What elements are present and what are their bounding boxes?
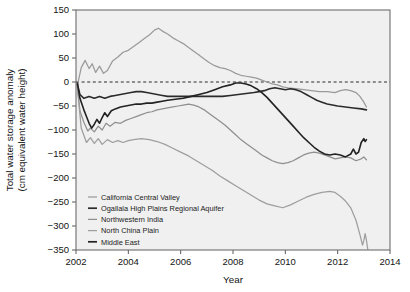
- x-tick-label: 2006: [170, 256, 191, 267]
- plot-area-background: [76, 10, 390, 250]
- y-tick-label: 0: [64, 76, 69, 87]
- x-tick-label: 2010: [275, 256, 296, 267]
- chart-figure: 150100500−50−100−150−200−250−300−350 200…: [0, 0, 410, 292]
- x-tick-label: 2002: [65, 256, 86, 267]
- y-tick-label: 150: [53, 4, 69, 15]
- y-axis-title-line1: Total water storage anomaly: [4, 69, 15, 192]
- y-tick-label: −50: [53, 100, 69, 111]
- legend-label: North China Plain: [101, 226, 159, 235]
- water-storage-anomaly-line-chart: 150100500−50−100−150−200−250−300−350 200…: [0, 0, 410, 292]
- y-tick-label: −300: [48, 220, 69, 231]
- legend-label: Northwestern India: [101, 215, 164, 224]
- legend-label: California Central Valley: [101, 193, 180, 202]
- y-tick-label: −100: [48, 124, 69, 135]
- legend-label: Ogallala High Plains Regional Aquifer: [101, 204, 224, 213]
- x-tick-label: 2012: [327, 256, 348, 267]
- x-tick-label: 2014: [379, 256, 400, 267]
- y-tick-label: −350: [48, 244, 69, 255]
- y-tick-label: 100: [53, 28, 69, 39]
- y-tick-label: −250: [48, 196, 69, 207]
- y-tick-label: −200: [48, 172, 69, 183]
- x-tick-label: 2008: [222, 256, 243, 267]
- x-tick-label: 2004: [118, 256, 139, 267]
- x-axis-title: Year: [223, 274, 244, 285]
- y-tick-label: 50: [58, 52, 69, 63]
- y-axis-title-line2: (cm equivalent water height): [16, 68, 27, 191]
- y-tick-label: −150: [48, 148, 69, 159]
- legend-label: Middle East: [101, 238, 140, 247]
